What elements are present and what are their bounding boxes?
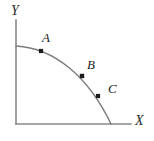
- production-possibilities-curve: [16, 46, 111, 124]
- point-label-a: A: [42, 31, 50, 44]
- point-label-c: C: [108, 82, 117, 95]
- point-label-b: B: [87, 58, 95, 71]
- data-point-b: [80, 74, 84, 78]
- data-point-c: [96, 94, 100, 98]
- y-axis-label: Y: [11, 4, 19, 18]
- ppf-chart-svg: [0, 0, 154, 141]
- data-point-a: [39, 49, 43, 53]
- x-axis-label: X: [135, 114, 144, 128]
- ppf-figure: Y X A B C: [0, 0, 154, 141]
